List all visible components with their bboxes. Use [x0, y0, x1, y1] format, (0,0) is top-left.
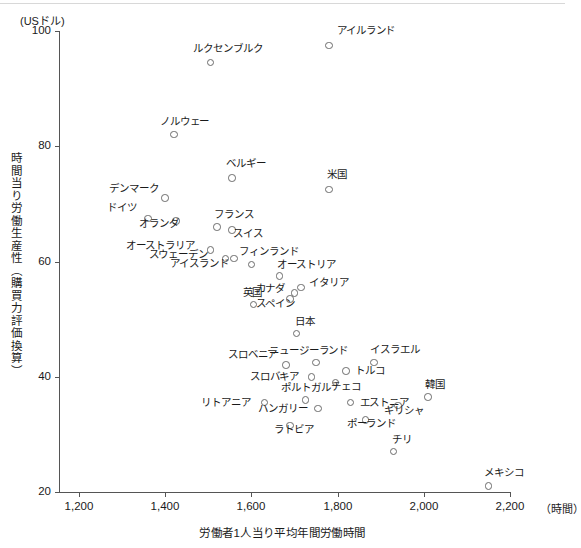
data-point-label: リトアニア: [201, 397, 251, 408]
data-point[interactable]: [161, 194, 169, 202]
data-point-label: アイスランド: [170, 258, 228, 269]
data-point[interactable]: [207, 59, 215, 67]
data-point-label: ハンガリー: [258, 403, 308, 414]
data-point[interactable]: [325, 42, 333, 50]
x-tick-mark: [79, 493, 80, 497]
data-point-label: 韓国: [425, 379, 445, 390]
x-tick-label: 1,400: [135, 500, 195, 512]
x-tick-mark: [165, 493, 166, 497]
data-point[interactable]: [276, 272, 284, 280]
data-point-label: オーストリア: [277, 259, 335, 270]
y-tick-label: 40: [17, 370, 51, 382]
data-point-label: ノルウェー: [160, 116, 210, 127]
data-point-label: アイルランド: [337, 25, 395, 36]
data-point[interactable]: [230, 255, 238, 263]
y-tick-mark: [55, 492, 59, 493]
data-point-label: イタリア: [309, 277, 349, 288]
x-tick-mark: [338, 493, 339, 497]
y-tick-mark: [55, 146, 59, 147]
x-tick-label: 1,600: [221, 500, 281, 512]
data-point[interactable]: [347, 399, 355, 407]
data-point-label: スペイン: [256, 298, 295, 309]
y-tick-mark: [55, 377, 59, 378]
data-point[interactable]: [282, 361, 290, 369]
data-point-label: ポーランド: [347, 418, 397, 429]
data-point-label: スイス: [233, 228, 263, 239]
data-point-label: メキシコ: [484, 467, 524, 478]
data-point[interactable]: [390, 448, 398, 456]
top-divider-rule: [0, 3, 565, 4]
data-point-label: フランス: [214, 209, 254, 220]
data-point-label: ベルギー: [226, 158, 266, 169]
data-point-label: トルコ: [355, 365, 385, 376]
x-axis-line: [59, 492, 511, 493]
x-tick-label: 1,800: [308, 500, 368, 512]
data-point-label: オランダ: [139, 218, 179, 229]
x-tick-label: 1,200: [49, 500, 109, 512]
data-point[interactable]: [248, 261, 256, 269]
y-tick-label: 60: [17, 255, 51, 267]
data-point-label: ラトビア: [274, 424, 314, 435]
data-point-label: フィンランド: [239, 246, 298, 257]
data-point[interactable]: [314, 405, 322, 413]
data-point[interactable]: [325, 186, 333, 194]
x-tick-mark: [510, 493, 511, 497]
data-point-label: ギリシャ: [384, 405, 424, 416]
x-tick-mark: [424, 493, 425, 497]
x-tick-mark: [251, 493, 252, 497]
data-point[interactable]: [308, 373, 316, 381]
y-tick-mark: [55, 262, 59, 263]
data-point[interactable]: [213, 223, 221, 231]
data-point[interactable]: [485, 482, 493, 490]
data-point[interactable]: [297, 284, 305, 292]
data-point-label: デンマーク: [109, 183, 159, 194]
y-tick-mark: [55, 31, 59, 32]
y-tick-label: 80: [17, 139, 51, 151]
y-tick-label: 100: [17, 24, 51, 36]
x-tick-label: 2,200: [480, 500, 540, 512]
data-point-label: ルクセンブルク: [193, 43, 262, 54]
data-point-label: ニュージーランド: [269, 345, 348, 356]
x-axis-unit-label: （時間）: [540, 500, 581, 516]
data-point-label: 日本: [295, 316, 315, 327]
y-axis-line: [59, 31, 60, 493]
data-point-label: チリ: [392, 434, 412, 445]
x-tick-label: 2,000: [394, 500, 454, 512]
data-point[interactable]: [228, 174, 236, 182]
y-tick-label: 20: [17, 485, 51, 497]
data-point[interactable]: [170, 131, 178, 139]
data-point-label: イスラエル: [370, 344, 420, 355]
data-point-label: 英国: [243, 287, 263, 298]
x-axis-title: 労働者1人当り平均年間労働時間: [0, 524, 565, 540]
data-point[interactable]: [312, 359, 320, 367]
data-point[interactable]: [424, 393, 432, 401]
data-point-label: ドイツ: [107, 202, 137, 213]
data-point[interactable]: [342, 367, 350, 375]
data-point-label: スロベニア: [228, 349, 278, 360]
data-point[interactable]: [293, 330, 301, 338]
data-point-label: ポルトガル: [281, 382, 331, 393]
data-point-label: チェコ: [331, 381, 361, 392]
data-point-label: 米国: [327, 169, 347, 180]
